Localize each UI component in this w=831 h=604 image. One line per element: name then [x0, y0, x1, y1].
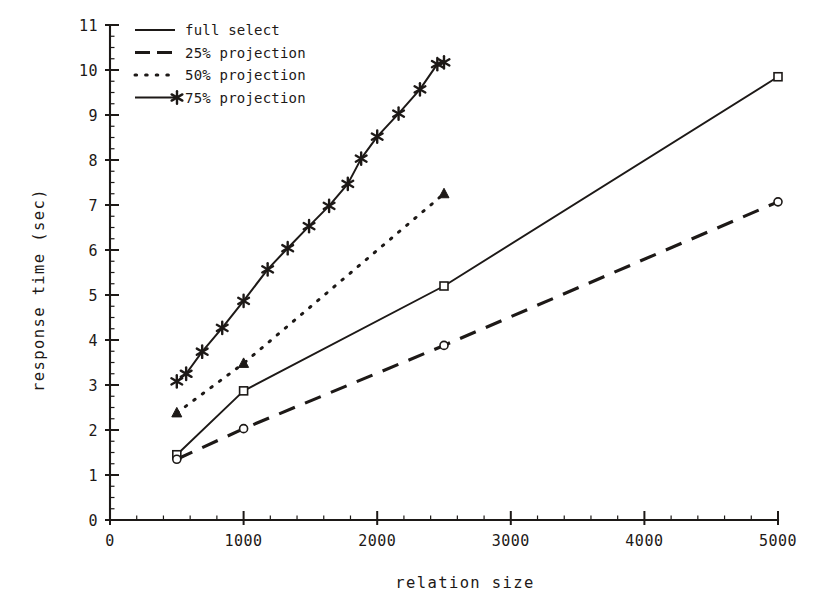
y-tick-label: 2	[88, 422, 98, 440]
x-tick-label: 2000	[358, 532, 396, 550]
x-axis-tick-labels: 010002000300040005000	[105, 532, 797, 550]
x-tick-label: 3000	[492, 532, 530, 550]
series-line-1	[177, 202, 778, 459]
chart-legend: full select25% projection50% projection7…	[135, 22, 306, 106]
legend-label: 25% projection	[185, 45, 306, 61]
chart-figure: 010002000300040005000 01234567891011 ful…	[0, 0, 831, 604]
legend-item: full select	[135, 22, 280, 38]
y-tick-label: 8	[88, 152, 98, 170]
y-tick-label: 11	[79, 17, 98, 35]
marker-triangle	[172, 407, 182, 417]
legend-item: 75% projection	[135, 90, 306, 106]
legend-item: 50% projection	[135, 67, 306, 83]
y-tick-label: 3	[88, 377, 98, 395]
marker-square	[240, 387, 248, 395]
y-tick-label: 0	[88, 512, 98, 530]
y-tick-label: 6	[88, 242, 98, 260]
line-chart-svg: 010002000300040005000 01234567891011 ful…	[0, 0, 831, 604]
legend-label: 50% projection	[185, 67, 306, 83]
x-tick-label: 0	[105, 532, 115, 550]
legend-label: full select	[185, 22, 280, 38]
y-tick-label: 4	[88, 332, 98, 350]
marker-triangle	[239, 358, 249, 368]
y-tick-label: 7	[88, 197, 98, 215]
marker-circle	[173, 455, 181, 463]
x-axis-title: relation size	[395, 574, 535, 592]
x-tick-label: 1000	[225, 532, 263, 550]
y-axis-title: response time (sec)	[30, 188, 48, 392]
marker-circle	[774, 198, 782, 206]
y-tick-label: 5	[88, 287, 98, 305]
y-tick-label: 1	[88, 467, 98, 485]
x-tick-label: 4000	[625, 532, 663, 550]
data-series	[177, 62, 778, 459]
legend-label: 75% projection	[185, 90, 306, 106]
marker-square	[774, 73, 782, 81]
marker-square	[440, 282, 448, 290]
marker-circle	[440, 341, 448, 349]
x-tick-label: 5000	[759, 532, 797, 550]
y-axis-tick-labels: 01234567891011	[79, 17, 98, 530]
marker-triangle	[439, 188, 449, 198]
y-tick-label: 9	[88, 107, 98, 125]
data-markers	[171, 56, 782, 463]
y-tick-label: 10	[79, 62, 98, 80]
legend-item: 25% projection	[135, 45, 306, 61]
marker-circle	[240, 425, 248, 433]
